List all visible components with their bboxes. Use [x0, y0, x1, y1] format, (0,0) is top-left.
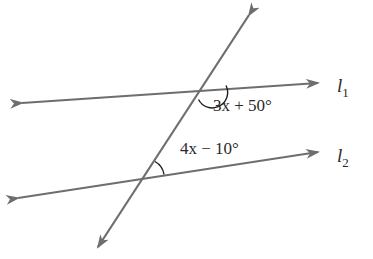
- parallel-lines-diagram: l1 l2 3x + 50° 4x − 10°: [0, 0, 373, 259]
- line-l2: [18, 152, 318, 198]
- line-l1: [22, 83, 318, 103]
- diagram-canvas: l1 l2 3x + 50° 4x − 10°: [0, 0, 373, 259]
- angle-label-top: 3x + 50°: [213, 96, 272, 115]
- angle-arc-bottom: [155, 162, 164, 175]
- angle-label-bottom: 4x − 10°: [180, 139, 239, 158]
- label-l1: l1: [337, 75, 349, 100]
- transversal-line: [98, 15, 249, 247]
- label-l2: l2: [337, 145, 349, 170]
